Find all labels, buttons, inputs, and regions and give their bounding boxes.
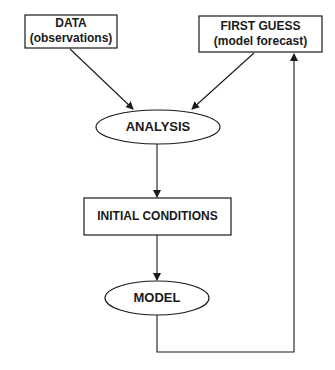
first-guess-label: FIRST GUESS (model forecast): [199, 19, 322, 49]
arrow-first-guess-to-analysis: [192, 53, 254, 109]
analysis-title: ANALYSIS: [96, 119, 220, 134]
arrow-data-to-analysis: [70, 49, 133, 109]
initial-conditions-label: INITIAL CONDITIONS: [84, 209, 231, 224]
model-title: MODEL: [105, 290, 209, 305]
data-subtitle: (observations): [25, 31, 117, 46]
analysis-label: ANALYSIS: [96, 119, 220, 134]
flowchart-canvas: [0, 0, 335, 370]
model-label: MODEL: [105, 290, 209, 305]
data-title: DATA: [25, 16, 117, 31]
data-label: DATA (observations): [25, 16, 117, 46]
first-guess-title: FIRST GUESS: [199, 19, 322, 34]
initial-conditions-title: INITIAL CONDITIONS: [84, 209, 231, 224]
first-guess-subtitle: (model forecast): [199, 34, 322, 49]
